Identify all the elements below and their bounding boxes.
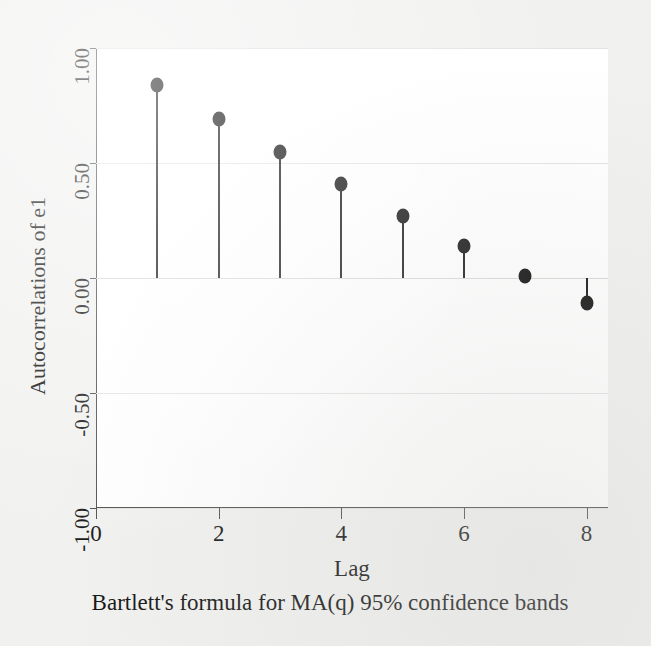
- x-axis-title: Lag: [96, 556, 608, 582]
- x-axis-tick-label: 8: [581, 521, 593, 547]
- scanned-figure-page: 1.000.500.00-0.50-1.00 02468 Autocorrela…: [0, 0, 651, 646]
- stem-line: [156, 85, 158, 278]
- plot-area: 1.000.500.00-0.50-1.00 02468: [96, 48, 608, 508]
- y-axis-tick-label: 0.00: [82, 278, 83, 279]
- y-axis-tick-label: 1.00: [82, 48, 83, 49]
- data-point-marker: [580, 296, 593, 311]
- data-point-marker: [151, 77, 164, 92]
- gridline: [96, 163, 608, 164]
- stem-line: [402, 216, 404, 278]
- gridline: [96, 508, 608, 509]
- data-point-marker: [457, 238, 470, 253]
- stem-line: [218, 119, 220, 278]
- x-axis-tick-label: 2: [213, 521, 225, 547]
- y-axis-tick-label: -1.00: [82, 508, 83, 509]
- y-axis-tick-label-text: 0.50: [71, 163, 96, 200]
- y-axis-tick-label-text: 1.00: [71, 48, 96, 85]
- x-axis-tick: [464, 508, 465, 519]
- x-axis-tick-label: 4: [336, 521, 348, 547]
- x-axis-tick: [341, 508, 342, 519]
- data-point-marker: [519, 268, 532, 283]
- y-axis-tick-label-text: 0.00: [71, 278, 96, 315]
- stem-line: [340, 184, 342, 278]
- data-point-marker: [396, 208, 409, 223]
- y-axis-tick-label: -0.50: [82, 393, 83, 394]
- acf-chart: 1.000.500.00-0.50-1.00 02468 Autocorrela…: [30, 18, 630, 618]
- x-axis-tick: [219, 508, 220, 519]
- data-point-marker: [335, 176, 348, 191]
- x-axis-tick: [96, 508, 97, 519]
- chart-note: Bartlett's formula for MA(q) 95% confide…: [30, 590, 630, 616]
- x-axis-tick-label: 0: [90, 521, 102, 547]
- data-point-marker: [273, 144, 286, 159]
- gridline: [96, 48, 608, 49]
- y-axis-title: Autocorrelations of e1: [25, 197, 51, 395]
- x-axis-tick: [587, 508, 588, 519]
- stem-line: [279, 152, 281, 279]
- y-axis-tick-label-text: -0.50: [71, 393, 96, 437]
- data-point-marker: [212, 112, 225, 127]
- y-axis-tick-label: 0.50: [82, 163, 83, 164]
- gridline: [96, 393, 608, 394]
- x-axis-tick-label: 6: [458, 521, 470, 547]
